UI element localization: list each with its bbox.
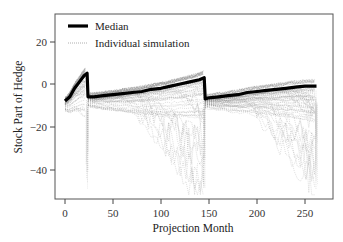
legend: Median Individual simulation	[68, 20, 190, 49]
y-tick-label: 20	[36, 36, 48, 48]
x-tick-label: 100	[153, 207, 170, 219]
legend-median-label: Median	[95, 20, 129, 32]
y-tick-label: 0	[42, 78, 48, 90]
simulation-path	[205, 96, 314, 193]
chart: 20 0 −20 −40 0 50 100 150 200 250 Projec…	[0, 0, 343, 242]
y-axis-title: Stock Part of Hedge	[12, 61, 25, 154]
simulation-path	[205, 107, 314, 194]
x-tick-label: 250	[297, 207, 314, 219]
simulation-path	[205, 104, 314, 109]
simulation-path	[88, 105, 203, 195]
x-tick-label: 50	[108, 207, 120, 219]
x-tick-label: 200	[249, 207, 266, 219]
y-tick-label: −20	[30, 121, 48, 133]
x-axis: 0 50 100 150 200 250	[62, 199, 314, 219]
y-tick-label: −40	[30, 164, 48, 176]
simulation-path	[65, 110, 85, 113]
simulation-paths	[65, 68, 317, 195]
x-tick-label: 0	[62, 207, 68, 219]
simulation-path	[88, 100, 203, 149]
legend-simulation-label: Individual simulation	[95, 37, 190, 49]
simulation-path	[205, 106, 314, 119]
y-axis: 20 0 −20 −40	[30, 36, 55, 176]
x-axis-title: Projection Month	[153, 222, 234, 235]
x-tick-label: 150	[201, 207, 218, 219]
